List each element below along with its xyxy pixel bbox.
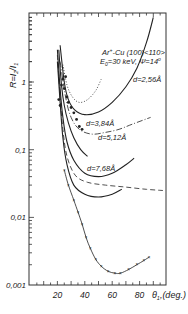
data-marker: × [81, 222, 84, 227]
data-marker: × [94, 257, 97, 262]
y-tick-label: 0,01 [10, 213, 26, 222]
data-marker: × [77, 210, 80, 215]
curve-dotted-2 [63, 65, 101, 103]
data-marker [60, 84, 63, 87]
y-tick-label: 1 [22, 78, 26, 87]
data-marker [63, 87, 66, 90]
annotation-line2: E0=30 keV, Ψ=14o [100, 56, 161, 67]
y-tick-label: 0,001 [6, 281, 26, 290]
curve-label: d=2,56Å [133, 75, 161, 84]
y-tick-label: 0,1 [15, 146, 26, 155]
chart: ×××××××××××××××× 0,0010,010,1120406080θ1… [0, 0, 188, 314]
data-marker: × [73, 198, 76, 203]
labels: 0,0010,010,1120406080θ1,(deg.)R=I2/I1Ar+… [6, 47, 186, 301]
data-marker: × [107, 269, 110, 274]
y-axis-label: R=I2/I1 [8, 63, 19, 88]
data-marker [66, 96, 69, 99]
x-axis-label: θ1,(deg.) [152, 290, 186, 301]
data-marker: × [142, 258, 145, 263]
x-tick-label: 60 [107, 290, 117, 300]
data-marker [72, 111, 75, 114]
data-marker [64, 75, 67, 78]
data-marker: × [63, 168, 66, 173]
data-marker: × [67, 183, 70, 188]
data-marker [81, 128, 84, 131]
data-marker: × [114, 271, 117, 276]
data-marker [61, 78, 64, 81]
curve-label: d=3,84Å [86, 119, 114, 128]
data-marker: × [136, 262, 139, 267]
data-marker: × [127, 267, 130, 272]
data-marker: × [100, 264, 103, 269]
curve-d-7-68- [57, 62, 121, 197]
data-marker: × [85, 235, 88, 240]
x-tick-label: 40 [80, 290, 90, 300]
data-marker [78, 125, 81, 128]
data-marker [67, 101, 70, 104]
data-marker: × [89, 246, 92, 251]
annotation-line1: Ar+-Cu (100)<110> [101, 47, 165, 57]
x-tick-label: 20 [52, 290, 63, 300]
data-marker [57, 98, 60, 101]
x-tick-label: 80 [135, 290, 145, 300]
data-marker: × [148, 255, 151, 260]
data-marker [75, 118, 78, 121]
curve-label: d=5,12Å [98, 133, 126, 142]
data-marker [59, 104, 62, 107]
data-marker: × [119, 271, 122, 276]
data-marker [70, 106, 73, 109]
curve-label: d=7,68Å [87, 164, 115, 173]
